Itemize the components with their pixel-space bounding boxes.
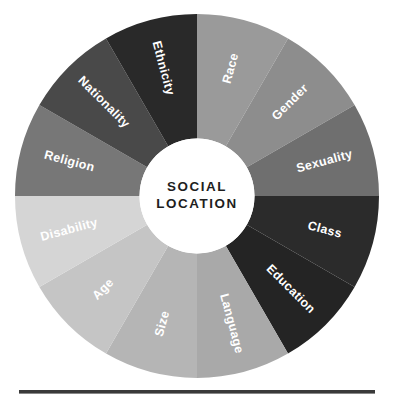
- wheel-graphic: RaceGenderSexualityClassEducationLanguag…: [0, 0, 393, 409]
- hub-title-line-2: LOCATION: [156, 196, 238, 211]
- hub-title-line-1: SOCIAL: [167, 179, 227, 194]
- bottom-rule: [19, 390, 375, 394]
- social-location-wheel-figure: RaceGenderSexualityClassEducationLanguag…: [0, 0, 393, 409]
